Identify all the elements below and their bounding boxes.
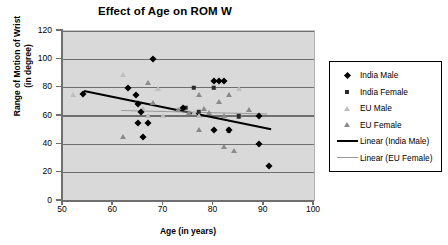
x-tick-label: 90 bbox=[248, 204, 278, 214]
data-point bbox=[145, 120, 152, 127]
x-axis-title: Age (in years) bbox=[62, 226, 314, 236]
data-point bbox=[236, 86, 242, 91]
y-tick-label: 20 bbox=[22, 166, 52, 176]
data-point bbox=[145, 113, 151, 118]
data-point bbox=[145, 80, 151, 85]
data-point bbox=[236, 114, 241, 119]
x-tick-label: 80 bbox=[198, 204, 228, 214]
data-point bbox=[140, 134, 147, 141]
data-point bbox=[210, 127, 217, 134]
x-tick-label: 60 bbox=[97, 204, 127, 214]
data-point bbox=[150, 56, 157, 63]
square-marker-icon bbox=[336, 86, 358, 98]
x-axis-line bbox=[62, 200, 314, 202]
legend-label: Linear (EU Female) bbox=[360, 153, 432, 163]
y-tick-mark bbox=[56, 58, 62, 60]
data-point bbox=[255, 141, 262, 148]
y-tick-mark bbox=[56, 143, 62, 145]
legend-item[interactable]: India Female bbox=[330, 84, 441, 101]
data-point bbox=[186, 110, 192, 115]
y-tick-mark bbox=[56, 114, 62, 116]
data-point bbox=[155, 86, 161, 91]
data-point bbox=[135, 120, 142, 127]
data-point bbox=[120, 72, 126, 77]
x-tick-label: 70 bbox=[147, 204, 177, 214]
gridline bbox=[63, 31, 314, 32]
legend-label: EU Male bbox=[360, 103, 392, 113]
plot-area bbox=[62, 30, 315, 201]
y-tick-mark bbox=[56, 86, 62, 88]
chart-title: Effect of Age on ROM W bbox=[0, 5, 330, 17]
data-point bbox=[265, 163, 272, 170]
plot-inner bbox=[63, 31, 314, 201]
data-point bbox=[70, 92, 76, 97]
data-point bbox=[132, 91, 139, 98]
legend-label: India Female bbox=[360, 87, 408, 97]
y-axis-title-line1: Range of Motion of Wrist bbox=[12, 16, 22, 116]
y-tick-label: 80 bbox=[22, 81, 52, 91]
data-point bbox=[211, 85, 216, 90]
gridline bbox=[63, 87, 314, 89]
data-point bbox=[196, 127, 202, 132]
black-line-icon bbox=[336, 135, 358, 147]
data-point bbox=[120, 133, 126, 138]
data-point bbox=[125, 84, 132, 91]
data-point bbox=[206, 110, 212, 115]
data-point bbox=[216, 99, 222, 104]
y-tick-label: 0 bbox=[22, 195, 52, 205]
legend-item[interactable]: EU Female bbox=[330, 117, 441, 134]
legend-label: EU Female bbox=[360, 120, 402, 130]
data-point bbox=[221, 113, 227, 118]
data-point bbox=[196, 92, 202, 97]
data-point bbox=[225, 127, 232, 134]
y-tick-label: 120 bbox=[22, 25, 52, 35]
legend-label: India Male bbox=[360, 70, 398, 80]
data-point bbox=[231, 148, 237, 153]
legend-item[interactable]: EU Male bbox=[330, 100, 441, 117]
y-tick-mark bbox=[56, 171, 62, 173]
gridline bbox=[63, 144, 314, 146]
data-point bbox=[160, 113, 166, 118]
y-tick-label: 100 bbox=[22, 53, 52, 63]
data-point bbox=[220, 78, 227, 85]
data-point bbox=[196, 110, 201, 115]
triangle-dark-marker-icon bbox=[336, 119, 358, 131]
data-point bbox=[246, 107, 252, 112]
diamond-marker-icon bbox=[336, 69, 358, 81]
data-point bbox=[221, 144, 227, 149]
y-axis-title: Range of Motion of Wrist (in degree) bbox=[12, 0, 34, 141]
y-tick-mark bbox=[56, 29, 62, 31]
data-point bbox=[226, 92, 232, 97]
gridline bbox=[63, 172, 314, 174]
data-point bbox=[150, 100, 156, 105]
legend-item[interactable]: India Male bbox=[330, 67, 441, 84]
legend-item[interactable]: Linear (India Male) bbox=[330, 133, 441, 150]
chart-legend: India MaleIndia FemaleEU MaleEU FemaleLi… bbox=[329, 61, 442, 172]
x-tick-label: 100 bbox=[298, 204, 328, 214]
gray-line-icon bbox=[336, 152, 358, 164]
x-tick-label: 50 bbox=[47, 204, 77, 214]
data-point bbox=[191, 85, 196, 90]
gridline bbox=[63, 115, 314, 117]
y-tick-label: 40 bbox=[22, 138, 52, 148]
chart-container: Effect of Age on ROM W Range of Motion o… bbox=[0, 0, 448, 245]
triangle-light-marker-icon bbox=[336, 102, 358, 114]
legend-label: Linear (India Male) bbox=[360, 136, 429, 146]
gridline bbox=[63, 59, 314, 61]
legend-item[interactable]: Linear (EU Female) bbox=[330, 150, 441, 167]
y-tick-label: 60 bbox=[22, 110, 52, 120]
